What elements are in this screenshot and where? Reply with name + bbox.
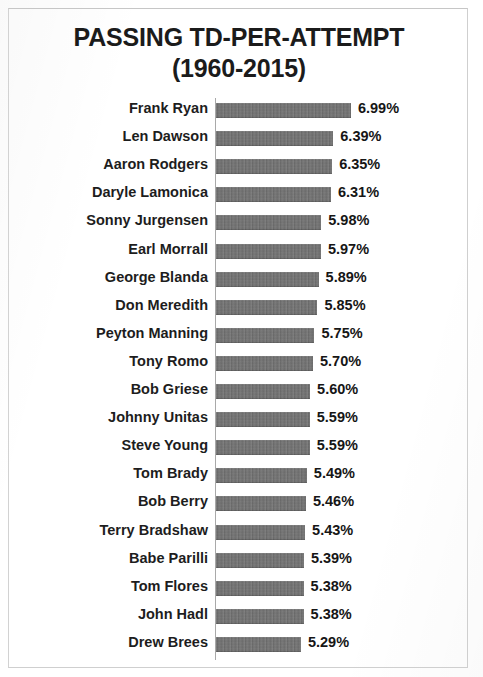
bar [216,581,304,596]
bar-row: Babe Parilli5.39% [0,548,483,576]
bar-value-label: 5.60% [317,379,358,399]
bar-category-label: Peyton Manning [8,323,208,343]
bar-category-label: Bob Griese [8,379,208,399]
bar-value-label: 5.38% [311,576,352,596]
bar-fill [216,328,314,343]
bar-fill [216,384,310,399]
bar-value-label: 5.85% [324,295,365,315]
bar-fill [216,440,310,455]
bar-row: Frank Ryan6.99% [0,98,483,126]
bar-category-label: Babe Parilli [8,548,208,568]
bar-fill [216,300,317,315]
bar-category-label: Bob Berry [8,491,208,511]
bar [216,440,310,455]
bar-fill [216,581,304,596]
bar [216,609,304,624]
bar-category-label: Sonny Jurgensen [8,210,208,230]
bar [216,412,310,427]
bar-row: Daryle Lamonica6.31% [0,182,483,210]
bar-fill [216,244,321,259]
bar [216,187,331,202]
bar-category-label: Steve Young [8,435,208,455]
bar-value-label: 5.70% [320,351,361,371]
bar-category-label: Earl Morrall [8,239,208,259]
bar-value-label: 6.99% [358,98,399,118]
bar [216,356,313,371]
bar-category-label: Len Dawson [8,126,208,146]
bar [216,525,305,540]
bar-category-label: Tom Brady [8,463,208,483]
bar-category-label: Terry Bradshaw [8,520,208,540]
bar-row: Bob Griese5.60% [0,379,483,407]
bar [216,637,301,652]
bar-category-label: Don Meredith [8,295,208,315]
bar-value-label: 5.39% [311,548,352,568]
bar-row: Johnny Unitas5.59% [0,407,483,435]
bar-fill [216,187,331,202]
bar [216,496,306,511]
bar-value-label: 5.89% [326,267,367,287]
bar-fill [216,637,301,652]
bar-row: Steve Young5.59% [0,435,483,463]
bar-category-label: John Hadl [8,604,208,624]
bar-value-label: 5.49% [314,463,355,483]
bar-fill [216,496,306,511]
bar-row: Sonny Jurgensen5.98% [0,210,483,238]
bar-row: Drew Brees5.29% [0,632,483,660]
bar [216,103,351,118]
bar-row: Bob Berry5.46% [0,491,483,519]
bar-fill [216,103,351,118]
bar [216,244,321,259]
bar [216,215,321,230]
bar-category-label: Frank Ryan [8,98,208,118]
bar-row: Earl Morrall5.97% [0,239,483,267]
bar-row: John Hadl5.38% [0,604,483,632]
bar-value-label: 5.46% [313,491,354,511]
bar [216,272,319,287]
bar-fill [216,609,304,624]
bar-value-label: 5.38% [311,604,352,624]
bar-row: Terry Bradshaw5.43% [0,520,483,548]
bar-category-label: Aaron Rodgers [8,154,208,174]
bar-row: Tom Flores5.38% [0,576,483,604]
bar-row: Tony Romo5.70% [0,351,483,379]
bar-row: Aaron Rodgers6.35% [0,154,483,182]
bar-row: Tom Brady5.49% [0,463,483,491]
bar-value-label: 5.75% [321,323,362,343]
bar-fill [216,215,321,230]
bar-value-label: 5.59% [317,407,358,427]
bar-value-label: 5.97% [328,239,369,259]
bar-value-label: 6.39% [340,126,381,146]
bar-row: Len Dawson6.39% [0,126,483,154]
bar [216,384,310,399]
bar-fill [216,159,332,174]
bar-value-label: 5.43% [312,520,353,540]
bar-category-label: Daryle Lamonica [8,182,208,202]
bar-value-label: 5.29% [308,632,349,652]
bar-fill [216,468,307,483]
bar [216,468,307,483]
bar-category-label: George Blanda [8,267,208,287]
bar-row: Don Meredith5.85% [0,295,483,323]
bar-value-label: 5.59% [317,435,358,455]
bar-fill [216,131,333,146]
bar-category-label: Tony Romo [8,351,208,371]
bar [216,159,332,174]
bar-fill [216,412,310,427]
bar [216,300,317,315]
bar-value-label: 6.35% [339,154,380,174]
bar-value-label: 6.31% [338,182,379,202]
bar-row: George Blanda5.89% [0,267,483,295]
bar-fill [216,525,305,540]
bar [216,553,304,568]
chart-page: PASSING TD-PER-ATTEMPT (1960-2015) Frank… [0,0,483,677]
bar-row: Peyton Manning5.75% [0,323,483,351]
bar [216,328,314,343]
bar-chart-plot-area: Frank Ryan6.99%Len Dawson6.39%Aaron Rodg… [0,0,483,677]
bar-category-label: Johnny Unitas [8,407,208,427]
bar-category-label: Drew Brees [8,632,208,652]
bar-value-label: 5.98% [328,210,369,230]
bar-fill [216,553,304,568]
bar [216,131,333,146]
bar-fill [216,272,319,287]
